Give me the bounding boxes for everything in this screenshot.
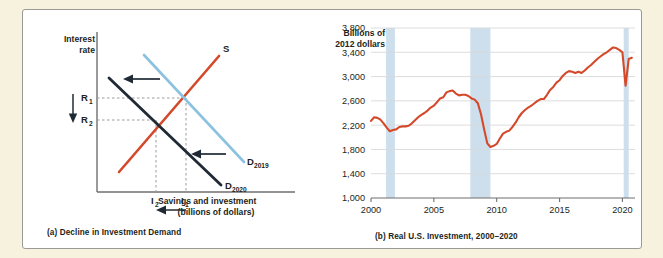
svg-text:2015: 2015 <box>549 205 569 215</box>
svg-text:2,600: 2,600 <box>342 96 365 106</box>
svg-text:2,200: 2,200 <box>342 121 365 131</box>
panel-a-supply-label: S <box>223 43 229 54</box>
svg-text:1,400: 1,400 <box>342 169 365 179</box>
svg-text:2020: 2020 <box>612 205 632 215</box>
panel-a-x-axis-label-line1: Savings and investment <box>158 196 256 206</box>
panel-a-rate-arrow <box>69 94 77 123</box>
panel-a-demand-2019-label: D 2019 <box>247 156 269 169</box>
chart-series-line <box>371 47 632 147</box>
chart-y-tick-labels: 1,0001,4001,8002,2002,6003,0003,4003,800 <box>342 23 365 203</box>
panel-a-demand-2019-curve <box>144 55 244 162</box>
panel-a-y-axis-label-line1: Interest <box>64 34 95 44</box>
svg-text:D: D <box>225 180 232 191</box>
svg-text:D: D <box>247 156 254 167</box>
svg-text:2005: 2005 <box>424 205 444 215</box>
svg-text:1,000: 1,000 <box>342 193 365 203</box>
chart-caption: (b) Real U.S. Investment, 2000–2020 <box>375 232 518 241</box>
panel-a-caption: (a) Decline in Investment Demand <box>47 228 181 237</box>
svg-text:3,000: 3,000 <box>342 72 365 82</box>
panel-a-r2-label: R 2 <box>81 114 93 127</box>
panel-a-x-axis-label: Savings and investment (billions of doll… <box>158 196 256 218</box>
panel-b-real-investment-chart: Billions of2012 dollars 1,0001,4001,8002… <box>323 10 643 250</box>
panel-a-shift-arrow-upper <box>123 75 160 84</box>
chart-x-axis-group: 20002005201020152020 <box>361 28 635 215</box>
panel-a-x-axis-label-line2: (billions of dollars) <box>158 207 256 218</box>
panel-a-y-axis-label-line2: rate <box>79 45 95 55</box>
chart-y-axis-title: Billions of2012 dollars <box>311 28 385 49</box>
svg-text:2019: 2019 <box>254 162 269 169</box>
panel-a-shift-arrow-lower <box>191 150 226 159</box>
svg-text:3,400: 3,400 <box>342 48 365 58</box>
panel-a-y-axis-label: Interest rate <box>39 34 95 55</box>
panel-a-demand-2020-label: D 2020 <box>225 180 247 193</box>
svg-text:2020: 2020 <box>232 186 247 193</box>
panel-a-investment-demand: Interest rate <box>23 10 333 250</box>
svg-text:1,800: 1,800 <box>342 145 365 155</box>
svg-text:2010: 2010 <box>486 205 506 215</box>
figure-frame: Interest rate <box>0 0 663 258</box>
svg-text:2: 2 <box>89 120 93 127</box>
panel-a-r1-label: R 1 <box>81 92 93 105</box>
svg-text:1: 1 <box>89 98 93 105</box>
svg-text:R: R <box>81 92 88 103</box>
svg-text:2000: 2000 <box>361 205 381 215</box>
figure-inner-panel: Interest rate <box>22 9 642 249</box>
panel-a-demand-2020-curve <box>109 78 221 185</box>
svg-text:R: R <box>81 114 88 125</box>
chart-gridlines <box>371 28 635 174</box>
svg-text:I: I <box>151 195 154 206</box>
